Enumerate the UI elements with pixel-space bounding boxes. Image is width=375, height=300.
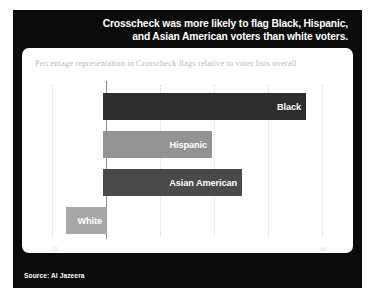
bar-row-black: Black <box>22 93 353 120</box>
chart-headline: Crosscheck was more likely to flag Black… <box>27 18 348 43</box>
x-tick-label-max: 60 <box>320 246 326 252</box>
bar-row-asian-american: Asian American <box>22 169 353 196</box>
chart-subtitle: Percentage representation in Crosscheck … <box>35 59 297 68</box>
bar-label-white: White <box>77 216 107 226</box>
bar-label-asian-american: Asian American <box>169 178 242 188</box>
headline-line-1: Crosscheck was more likely to flag Black… <box>27 18 348 31</box>
bar-label-black: Black <box>277 102 306 112</box>
x-tick-label-min: -20 <box>50 246 58 252</box>
bar-label-hispanic: Hispanic <box>170 140 213 150</box>
bar-black: Black <box>103 93 306 120</box>
bar-hispanic: Hispanic <box>103 131 212 158</box>
bar-row-white: White <box>22 207 353 234</box>
plot-area: Black Hispanic Asian American White -20 … <box>22 81 353 253</box>
chart-card: Percentage representation in Crosscheck … <box>22 48 353 253</box>
headline-line-2: and Asian American voters than white vot… <box>27 31 348 44</box>
bar-asian-american: Asian American <box>103 169 242 196</box>
figure-frame: Crosscheck was more likely to flag Black… <box>13 10 362 288</box>
bar-row-hispanic: Hispanic <box>22 131 353 158</box>
source-note: Source: Al Jazeera <box>24 272 85 279</box>
bar-white: White <box>66 207 107 234</box>
